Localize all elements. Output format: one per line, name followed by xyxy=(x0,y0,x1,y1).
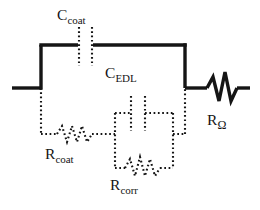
label-r-coat-sub: coat xyxy=(55,153,73,165)
label-c-edl-base: C xyxy=(105,64,115,81)
label-c-edl-sub: EDL xyxy=(115,72,136,84)
r-omega-zigzag xyxy=(207,72,237,101)
label-r-omega-base: R xyxy=(207,111,217,128)
r-corr-zigzag xyxy=(125,157,160,176)
label-r-coat-base: R xyxy=(45,145,55,162)
label-c-coat-base: C xyxy=(57,6,67,23)
label-r-corr-sub: corr xyxy=(120,184,137,196)
label-c-edl: CEDL xyxy=(105,65,137,84)
equivalent-circuit-figure: Ccoat CEDL Rcoat Rcorr RΩ xyxy=(0,0,260,210)
label-r-corr-base: R xyxy=(110,176,120,193)
label-r-omega: RΩ xyxy=(207,112,226,131)
label-c-coat-sub: coat xyxy=(67,14,85,26)
label-r-coat: Rcoat xyxy=(45,146,73,165)
label-r-corr: Rcorr xyxy=(110,177,138,196)
label-c-coat: Ccoat xyxy=(57,7,85,26)
r-coat-zigzag xyxy=(57,126,92,142)
label-r-omega-sub: Ω xyxy=(217,118,226,132)
